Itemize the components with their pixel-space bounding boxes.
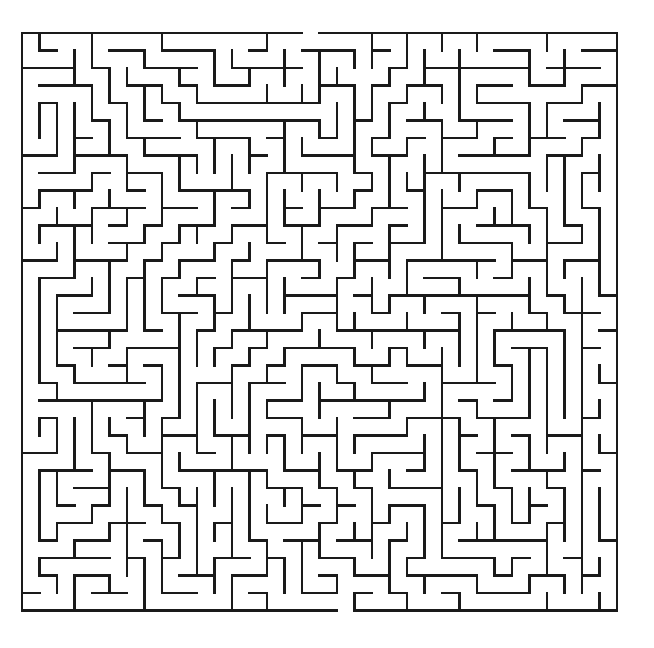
maze-drawing [0, 0, 654, 648]
maze-background [0, 0, 654, 648]
maze-page [0, 0, 654, 648]
maze-canvas [0, 0, 654, 648]
